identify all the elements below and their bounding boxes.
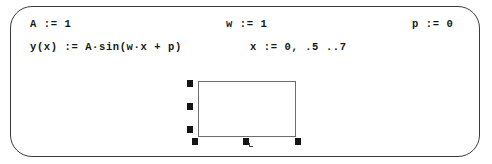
worksheet-root: A := 1 w := 1 p := 0 y(x) := A·sin(w·x +… — [0, 0, 492, 164]
math-region-frequency-definition[interactable]: w := 1 — [226, 18, 267, 30]
resize-handle-left-middle[interactable] — [187, 103, 193, 110]
resize-handle-bottom-left[interactable] — [192, 138, 198, 145]
resize-handle-bottom-right[interactable] — [295, 138, 301, 145]
math-region-range-variable-definition[interactable]: x := 0, .5 ..7 — [250, 41, 347, 53]
math-region-phase-definition[interactable]: p := 0 — [412, 18, 453, 30]
empty-plot-box[interactable] — [198, 81, 296, 137]
resize-handle-left-top[interactable] — [187, 80, 193, 87]
resize-cursor-icon — [249, 143, 253, 147]
math-region-amplitude-definition[interactable]: A := 1 — [30, 18, 71, 30]
resize-handle-left-bottom[interactable] — [187, 126, 193, 133]
math-region-function-definition[interactable]: y(x) := A·sin(w·x + p) — [30, 41, 182, 53]
